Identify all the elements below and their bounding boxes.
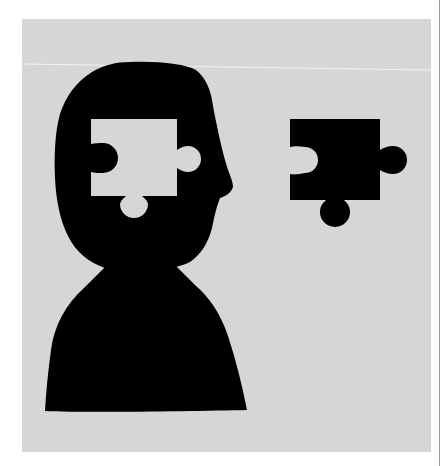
- puzzle-head-illustration: [0, 0, 445, 466]
- right-edge-line: [439, 0, 440, 466]
- illustration-canvas: Silhouette of a head with a puzzle-piece…: [0, 0, 445, 466]
